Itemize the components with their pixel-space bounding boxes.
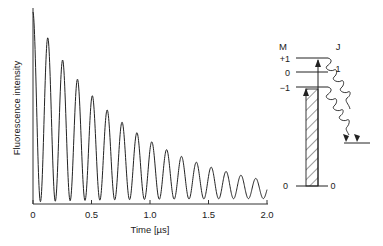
arrow-down-1: [343, 134, 349, 142]
m-label-plus1: +1: [280, 54, 290, 64]
x-tick-labels: 00.51.01.52.0: [30, 209, 273, 220]
x-axis-label: Time [µs]: [131, 224, 170, 235]
m-label-minus1: −1: [280, 83, 290, 93]
ground-j-label: 0: [330, 181, 335, 191]
svg-text:0: 0: [30, 209, 35, 220]
svg-text:0.5: 0.5: [85, 209, 98, 220]
arrow-up-plus1: [315, 59, 321, 67]
svg-text:1.5: 1.5: [202, 209, 215, 220]
ground-m-label: 0: [283, 181, 288, 191]
hatched-excitation-bar: [306, 89, 318, 186]
svg-text:1.0: 1.0: [143, 209, 156, 220]
j-header: J: [336, 41, 341, 52]
wavy-emission-2: [326, 87, 349, 135]
m-label-0: 0: [285, 68, 290, 78]
energy-level-diagram: M J +1 0 −1 1 0 0: [279, 41, 370, 191]
y-axis-label: Fluorescence intensity: [11, 60, 22, 155]
x-ticks: [33, 200, 267, 204]
fluorescence-curve: [33, 12, 267, 202]
m-header: M: [279, 41, 287, 52]
figure: 00.51.01.52.0 Time [µs] Fluorescence int…: [0, 0, 383, 246]
arrow-down-2: [354, 134, 360, 142]
svg-text:2.0: 2.0: [260, 209, 273, 220]
